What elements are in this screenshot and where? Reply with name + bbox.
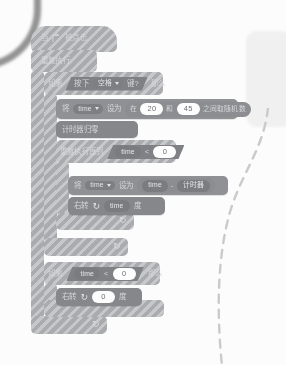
hat-label-after: 被点击 xyxy=(65,34,87,42)
turn-right-time-value-label: time xyxy=(110,203,124,210)
less-than-right-value-2: 0 xyxy=(122,270,126,278)
turn-right-zero-value: 0 xyxy=(101,293,105,301)
repeat-until-keyword: 重复执行直到 xyxy=(60,148,103,156)
turn-right-zero-block[interactable]: 右转 ↻ 0 度 xyxy=(56,288,142,306)
if-time-then-keyword: 那么 xyxy=(148,270,162,278)
variable-reporter-time-2-label: time xyxy=(148,182,162,189)
turn-right-unit: 度 xyxy=(134,202,141,210)
less-than-operator-1: < xyxy=(145,148,150,156)
random-suffix: 之间取随机数 xyxy=(203,106,246,113)
random-to-value: 45 xyxy=(184,105,193,113)
if-then-keyword: 那么 xyxy=(151,80,165,88)
chevron-down-icon xyxy=(95,107,99,110)
key-pressed-suffix: 键? xyxy=(127,80,139,88)
turn-right-zero-keyword: 右转 xyxy=(62,293,76,301)
turn-right-time-block[interactable]: 右转 ↻ time 度 xyxy=(68,197,165,215)
chevron-down-icon xyxy=(115,82,119,85)
forever-label: 重复执行 xyxy=(41,57,70,65)
if-keyword: 如果 xyxy=(48,80,62,88)
subtract-operator-block[interactable]: time - 计时器 xyxy=(137,178,215,193)
reset-timer-block[interactable]: 计时器归零 xyxy=(56,121,138,138)
key-dropdown-value: 空格 xyxy=(98,80,112,87)
variable-dropdown-value: time xyxy=(78,106,92,113)
set-variable-minus-block[interactable]: 将 time 设为 time - 计时器 xyxy=(68,176,228,195)
set-variable-random-block[interactable]: 将 time 设为 在 20 和 45 之间取随机数 xyxy=(56,99,238,119)
less-than-right-input-2[interactable]: 0 xyxy=(113,268,136,280)
variable-reporter-time-1[interactable]: time xyxy=(115,146,141,158)
chevron-down-icon xyxy=(107,184,111,187)
forever-spine xyxy=(31,70,44,322)
repeat-until-row[interactable]: 重复执行直到 time < 0 xyxy=(60,144,174,160)
forever-loop-arrow-icon: ↻ xyxy=(92,320,100,329)
repeat-until-loop-arrow-icon: ↻ xyxy=(119,216,127,225)
random-prefix: 在 xyxy=(130,106,137,113)
dashed-connector-curve xyxy=(190,108,286,365)
less-than-boolean-2[interactable]: time < 0 xyxy=(66,267,143,281)
variable-reporter-time-2[interactable]: time xyxy=(142,180,168,192)
less-than-right-value-1: 0 xyxy=(163,148,167,156)
key-dropdown[interactable]: 空格 xyxy=(93,79,123,89)
set-to-keyword: 设为 xyxy=(107,105,121,113)
random-from-value: 20 xyxy=(148,105,157,113)
if-time-row[interactable]: 如果 time < 0 那么 xyxy=(48,266,158,282)
key-pressed-boolean[interactable]: 按下 空格 键? xyxy=(65,77,147,91)
if-key-row[interactable]: 如果 按下 空格 键? 那么 xyxy=(48,75,160,92)
turn-right-time-value[interactable]: time xyxy=(104,200,130,212)
timer-reporter[interactable]: 计时器 xyxy=(177,180,211,192)
hat-label-before: 当 xyxy=(41,34,48,42)
reset-timer-label: 计时器归零 xyxy=(62,126,98,134)
turn-right-zero-unit: 度 xyxy=(119,293,126,301)
set-minus-to-keyword: 设为 xyxy=(119,182,133,190)
random-middle: 和 xyxy=(166,106,173,113)
hat-block-label-row[interactable]: 当 被点击 xyxy=(35,31,123,45)
less-than-right-input-1[interactable]: 0 xyxy=(153,146,176,158)
timer-reporter-label: 计时器 xyxy=(183,182,205,189)
if-key-bottom-arrow-icon: ↻ xyxy=(113,242,121,251)
random-operator-block[interactable]: 在 20 和 45 之间取随机数 xyxy=(125,102,251,117)
variable-dropdown-time[interactable]: time xyxy=(73,104,103,114)
random-from-input[interactable]: 20 xyxy=(140,103,163,115)
green-flag-icon xyxy=(52,34,61,42)
less-than-operator-2: < xyxy=(104,270,109,278)
key-pressed-prefix: 按下 xyxy=(74,80,88,88)
block-canvas[interactable]: 当 被点击 重复执行 ↻ 如果 按下 空格 键? 那么 ↻ 将 time xyxy=(0,0,286,365)
variable-reporter-time-3[interactable]: time xyxy=(74,268,100,280)
set-minus-keyword: 将 xyxy=(74,182,81,190)
variable-dropdown-time-2[interactable]: time xyxy=(85,181,115,191)
variable-dropdown-value-2: time xyxy=(90,182,104,189)
random-to-input[interactable]: 45 xyxy=(177,103,200,115)
less-than-boolean-1[interactable]: time < 0 xyxy=(107,145,184,159)
turn-right-icon: ↻ xyxy=(92,202,100,211)
set-keyword: 将 xyxy=(62,105,69,113)
subtract-operator-sign: - xyxy=(171,182,174,190)
forever-label-row: 重复执行 xyxy=(35,54,105,67)
turn-right-zero-input[interactable]: 0 xyxy=(92,291,115,303)
turn-right-icon: ↻ xyxy=(80,293,88,302)
variable-reporter-time-3-label: time xyxy=(80,271,94,278)
turn-right-keyword: 右转 xyxy=(74,202,88,210)
if-time-keyword: 如果 xyxy=(48,270,62,278)
variable-reporter-time-1-label: time xyxy=(121,149,135,156)
